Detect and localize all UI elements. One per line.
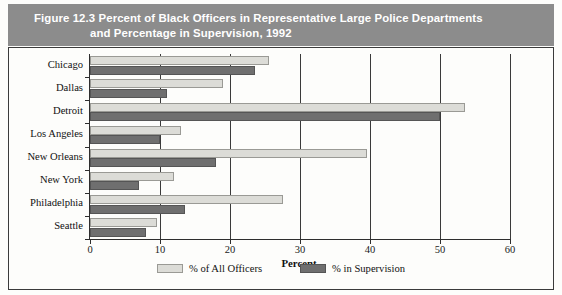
chart-bar xyxy=(90,79,223,88)
chart-bar xyxy=(90,228,146,237)
plot-area: 0102030405060ChicagoDallasDetroitLos Ang… xyxy=(89,54,510,240)
chart-bar xyxy=(90,149,367,158)
x-axis-tick-label: 40 xyxy=(355,244,385,255)
chart-bar xyxy=(90,181,139,190)
x-axis-tick-label: 30 xyxy=(285,244,315,255)
chart-bar xyxy=(90,205,185,214)
legend-label-in-supervision: % in Supervision xyxy=(332,263,405,274)
chart-bar xyxy=(90,172,174,181)
y-axis-category-label: Philadelphia xyxy=(7,197,83,208)
chart-category-row: Chicago xyxy=(90,54,510,77)
y-axis-category-label: Los Angeles xyxy=(7,128,83,139)
x-axis-tick-label: 50 xyxy=(425,244,455,255)
x-axis-tick-label: 10 xyxy=(145,244,175,255)
figure-title-line-2: and Percentage in Supervision, 1992 xyxy=(34,26,534,41)
figure-title-line-1: Figure 12.3 Percent of Black Officers in… xyxy=(34,12,483,24)
y-axis-category-label: New York xyxy=(7,174,83,185)
chart-category-row: Philadelphia xyxy=(90,193,510,216)
y-axis-category-label: Seattle xyxy=(7,220,83,231)
y-axis-category-label: Detroit xyxy=(7,105,83,116)
legend-item-all-officers: % of All Officers xyxy=(157,263,262,274)
chart-bar xyxy=(90,126,181,135)
figure-title-band: Figure 12.3 Percent of Black Officers in… xyxy=(8,4,554,46)
x-axis-tick-label: 20 xyxy=(215,244,245,255)
x-axis-tick-label: 0 xyxy=(75,244,105,255)
plot-frame: 0102030405060ChicagoDallasDetroitLos Ang… xyxy=(8,47,554,290)
y-axis-category-label: New Orleans xyxy=(7,151,83,162)
chart-category-row: New Orleans xyxy=(90,147,510,170)
chart-legend: % of All Officers % in Supervision xyxy=(8,263,554,274)
legend-swatch-in-supervision xyxy=(300,264,326,273)
x-axis-tick-label: 60 xyxy=(495,244,525,255)
chart-bar xyxy=(90,195,283,204)
chart-bar xyxy=(90,66,255,75)
legend-swatch-all-officers xyxy=(157,264,183,273)
chart-category-row: Detroit xyxy=(90,100,510,123)
figure-title: Figure 12.3 Percent of Black Officers in… xyxy=(34,11,534,41)
chart-bar xyxy=(90,89,167,98)
chart-category-row: New York xyxy=(90,170,510,193)
y-axis-category-label: Dallas xyxy=(7,82,83,93)
chart-category-row: Los Angeles xyxy=(90,123,510,146)
chart-bar xyxy=(90,218,157,227)
x-gridline xyxy=(510,54,511,239)
figure-container: Figure 12.3 Percent of Black Officers in… xyxy=(0,0,562,295)
chart-category-row: Seattle xyxy=(90,216,510,239)
legend-label-all-officers: % of All Officers xyxy=(189,263,262,274)
legend-item-in-supervision: % in Supervision xyxy=(300,263,405,274)
chart-bar xyxy=(90,56,269,65)
y-axis-category-label: Chicago xyxy=(7,59,83,70)
chart-bar xyxy=(90,112,440,121)
chart-bar xyxy=(90,135,160,144)
chart-category-row: Dallas xyxy=(90,77,510,100)
y-axis-tick xyxy=(85,239,90,240)
chart-bar xyxy=(90,158,216,167)
chart-bar xyxy=(90,103,465,112)
